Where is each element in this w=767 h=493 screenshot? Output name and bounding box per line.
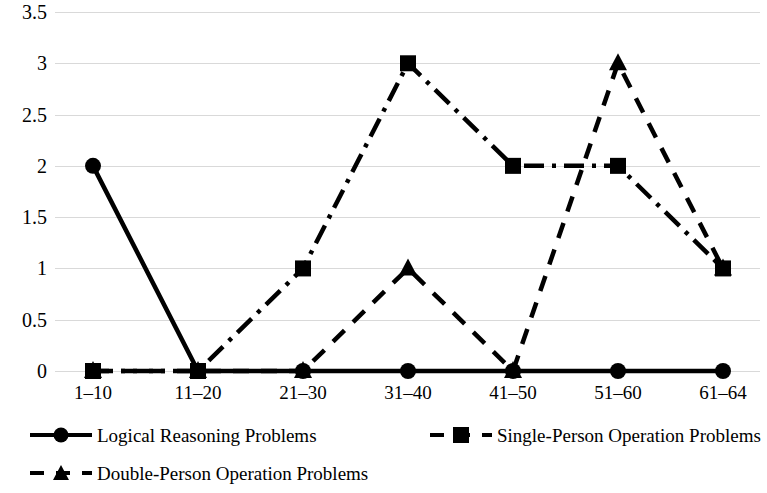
x-axis-tick-label: 51–60	[594, 383, 642, 402]
y-axis-tick-label: 1.5	[22, 207, 47, 227]
data-point-marker	[85, 158, 101, 174]
x-axis-tick-label: 21–30	[279, 383, 327, 402]
y-axis-tick-label: 2.5	[22, 105, 47, 125]
y-axis-tick-label: 3.5	[22, 2, 47, 22]
legend-label: Single-Person Operation Problems	[494, 426, 761, 445]
legend-item-logical-reasoning[interactable]: Logical Reasoning Problems	[28, 422, 317, 448]
series-2	[85, 55, 731, 379]
y-axis-tick-label: 1	[37, 258, 47, 278]
y-axis-tick-label: 2	[37, 156, 47, 176]
legend-label: Logical Reasoning Problems	[94, 426, 317, 445]
x-axis: 1–1011–2021–3031–4041–5051–6061–64	[55, 383, 760, 411]
legend-sample-square-dashed	[428, 422, 494, 448]
data-point-marker	[715, 363, 731, 379]
x-axis-tick-label: 11–20	[175, 383, 222, 402]
y-axis-tick-label: 3	[37, 53, 47, 73]
data-point-marker	[505, 158, 521, 174]
y-axis-tick-label: 0.5	[22, 310, 47, 330]
series-layer	[55, 12, 760, 371]
y-axis: 00.511.522.533.5	[0, 0, 47, 383]
data-point-marker	[295, 260, 311, 276]
data-point-marker	[400, 363, 416, 379]
series-line	[93, 63, 723, 371]
legend-item-single-person-operation[interactable]: Single-Person Operation Problems	[428, 422, 761, 448]
data-point-marker	[399, 258, 417, 275]
x-axis-tick-label: 31–40	[384, 383, 432, 402]
chart-container: 00.511.522.533.5 1–1011–2021–3031–4041–5…	[0, 0, 767, 493]
legend-label: Double-Person Operation Problems	[94, 464, 368, 483]
data-point-marker	[610, 363, 626, 379]
data-point-marker	[610, 158, 626, 174]
plot-area	[55, 12, 760, 371]
series-3	[84, 53, 732, 378]
x-axis-tick-label: 61–64	[699, 383, 747, 402]
y-axis-tick-label: 0	[37, 361, 47, 381]
data-point-marker	[609, 53, 627, 70]
x-axis-tick-label: 1–10	[74, 383, 112, 402]
series-line	[93, 63, 723, 371]
chart-legend: Logical Reasoning Problems Single-Person…	[0, 420, 767, 493]
data-point-marker	[400, 55, 416, 71]
legend-sample-circle-solid	[28, 422, 94, 448]
x-axis-tick-label: 41–50	[489, 383, 537, 402]
legend-sample-triangle-dashed	[28, 460, 94, 486]
legend-item-double-person-operation[interactable]: Double-Person Operation Problems	[28, 460, 368, 486]
